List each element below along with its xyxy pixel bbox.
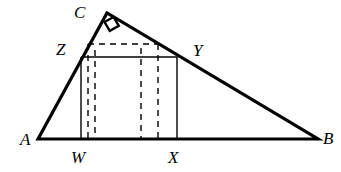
geometry-canvas — [0, 0, 341, 172]
vertex-label-Z: Z — [56, 41, 65, 58]
vertex-label-B: B — [323, 130, 333, 147]
triangle-ABC-outline — [38, 13, 318, 139]
vertex-label-X: X — [168, 149, 178, 166]
vertex-label-Y: Y — [193, 42, 202, 59]
vertex-label-A: A — [20, 131, 30, 148]
vertex-label-C: C — [74, 4, 85, 21]
vertex-label-W: W — [71, 149, 85, 166]
geometry-figure: A B C W X Y Z — [0, 0, 341, 172]
dashed-construction-lines — [88, 44, 158, 139]
